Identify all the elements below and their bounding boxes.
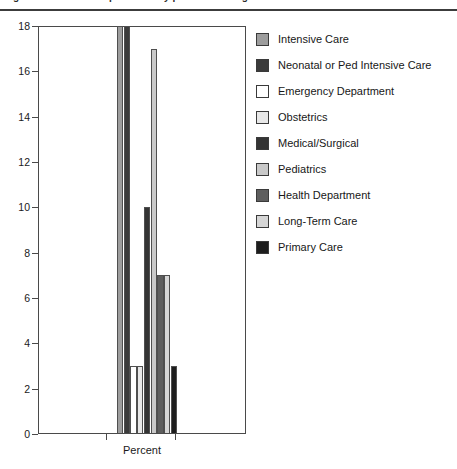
y-axis: 181614121086420 xyxy=(0,26,38,434)
x-axis-tick xyxy=(106,434,107,440)
legend-swatch-icon xyxy=(256,189,269,202)
legend-item-label: Long-Term Care xyxy=(278,216,357,227)
y-axis-tick-label: 14 xyxy=(18,111,30,122)
legend-item: Medical/Surgical xyxy=(256,130,454,156)
y-axis-tick-label: 18 xyxy=(18,21,30,32)
bars-layer xyxy=(38,26,246,434)
legend-item-label: Pediatrics xyxy=(278,164,326,175)
bar-medical-surgical xyxy=(144,207,150,434)
legend-swatch-icon xyxy=(256,59,269,72)
bar-intensive-care xyxy=(117,26,123,434)
bar-emergency-department xyxy=(130,366,136,434)
legend-item-label: Health Department xyxy=(278,190,370,201)
chart-legend: Intensive CareNeonatal or Ped Intensive … xyxy=(256,26,454,260)
legend-item: Emergency Department xyxy=(256,78,454,104)
legend-swatch-icon xyxy=(256,85,269,98)
bar-health-department xyxy=(157,275,163,434)
legend-item-label: Obstetrics xyxy=(278,112,328,123)
y-axis-tick-label: 8 xyxy=(24,247,30,258)
y-axis-tick-label: 0 xyxy=(24,429,30,440)
bar-obstetrics xyxy=(137,366,143,434)
legend-item: Pediatrics xyxy=(256,156,454,182)
legend-item: Intensive Care xyxy=(256,26,454,52)
figure-caption-text: Figure. Percent of respondents by practi… xyxy=(4,0,248,2)
y-axis-tick-label: 4 xyxy=(24,338,30,349)
y-axis-tick-label: 10 xyxy=(18,202,30,213)
y-axis-tick-label: 2 xyxy=(24,383,30,394)
legend-item-label: Emergency Department xyxy=(278,86,394,97)
legend-item: Obstetrics xyxy=(256,104,454,130)
legend-item: Health Department xyxy=(256,182,454,208)
legend-item-label: Primary Care xyxy=(278,242,343,253)
x-axis-tick xyxy=(175,434,176,440)
bar-neonatal-or-ped-intensive-care xyxy=(124,26,130,434)
y-axis-tick-label: 6 xyxy=(24,293,30,304)
bar-primary-care xyxy=(171,366,177,434)
legend-item: Long-Term Care xyxy=(256,208,454,234)
y-axis-tick-label: 12 xyxy=(18,157,30,168)
legend-swatch-icon xyxy=(256,241,269,254)
legend-item-label: Intensive Care xyxy=(278,34,349,45)
x-axis-label: Percent xyxy=(38,444,246,456)
legend-item: Neonatal or Ped Intensive Care xyxy=(256,52,454,78)
x-axis-line xyxy=(38,433,246,434)
legend-item-label: Medical/Surgical xyxy=(278,138,359,149)
bar-long-term-care xyxy=(164,275,170,434)
legend-item: Primary Care xyxy=(256,234,454,260)
legend-item-label: Neonatal or Ped Intensive Care xyxy=(278,60,431,71)
figure-caption-clipped: Figure. Percent of respondents by practi… xyxy=(0,0,457,9)
legend-swatch-icon xyxy=(256,215,269,228)
legend-swatch-icon xyxy=(256,111,269,124)
y-axis-tick xyxy=(32,434,38,435)
legend-swatch-icon xyxy=(256,33,269,46)
bar-pediatrics xyxy=(151,49,157,434)
legend-swatch-icon xyxy=(256,137,269,150)
legend-swatch-icon xyxy=(256,163,269,176)
bar-chart-figure: 181614121086420 Percent Intensive CareNe… xyxy=(0,11,457,469)
y-axis-tick-label: 16 xyxy=(18,66,30,77)
